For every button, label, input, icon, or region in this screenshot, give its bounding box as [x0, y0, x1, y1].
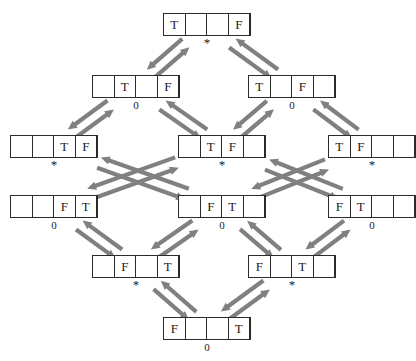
diagram-canvas: TF*TF0TF0TF*TF*TF*FT0FT0FT0FT*FT*FT0 — [0, 0, 416, 361]
tape-node: FT0 — [178, 195, 266, 218]
tape-cell — [186, 14, 208, 35]
tape-cell — [186, 318, 208, 339]
transition-arrow — [75, 228, 116, 259]
tape-cell: F — [158, 76, 180, 97]
tape-cell — [179, 196, 201, 217]
transition-arrow — [312, 108, 352, 139]
tape-node: TF* — [10, 135, 98, 158]
transition-arrow — [166, 100, 209, 131]
tape-cell — [33, 136, 55, 157]
node-label: * — [179, 159, 265, 170]
tape-cell — [394, 136, 416, 157]
tape-cell — [207, 318, 229, 339]
tape-cell — [179, 136, 201, 157]
tape-cell: F — [222, 136, 244, 157]
tape-cell — [372, 136, 394, 157]
tape-cell: F — [54, 196, 76, 217]
tape-cell — [207, 14, 229, 35]
tape-node: FT0 — [328, 195, 416, 218]
transition-arrow — [233, 99, 268, 130]
transition-arrow — [101, 156, 190, 190]
node-label: 0 — [93, 99, 179, 111]
tape-cell — [136, 76, 158, 97]
tape-cell: T — [222, 196, 244, 217]
transition-arrow — [83, 221, 124, 252]
transition-arrow — [158, 108, 201, 139]
tape-cell — [372, 196, 394, 217]
tape-cell: T — [229, 318, 251, 339]
tape-cell — [93, 76, 115, 97]
node-label: * — [93, 279, 179, 290]
tape-cell: F — [76, 136, 98, 157]
tape-node: TF* — [178, 135, 266, 158]
node-label: * — [164, 37, 250, 48]
transition-arrow — [247, 221, 282, 252]
tape-node: FT0 — [163, 317, 251, 340]
tape-cell — [93, 256, 115, 277]
tape-cell: F — [229, 14, 251, 35]
tape-cell: F — [351, 136, 373, 157]
tape-node: TF* — [163, 13, 251, 36]
transition-arrow — [68, 99, 109, 130]
transition-arrow — [90, 167, 179, 201]
tape-cell: F — [329, 196, 351, 217]
node-label: 0 — [164, 341, 250, 353]
node-label: * — [249, 279, 335, 290]
node-label: 0 — [249, 99, 335, 111]
tape-cell: T — [158, 256, 180, 277]
transition-arrow — [152, 288, 189, 321]
transition-arrow — [87, 155, 176, 189]
tape-cell: T — [201, 136, 223, 157]
transition-arrow — [305, 219, 345, 250]
node-label: * — [11, 159, 97, 170]
tape-cell: T — [54, 136, 76, 157]
arrow-layer — [0, 0, 416, 361]
tape-cell — [33, 196, 55, 217]
tape-cell — [314, 76, 336, 97]
tape-cell — [11, 196, 33, 217]
transition-arrow — [228, 46, 272, 79]
transition-arrow — [96, 166, 185, 200]
transition-arrow — [269, 159, 344, 191]
tape-cell: T — [76, 196, 98, 217]
tape-cell — [314, 256, 336, 277]
tape-node: TF* — [328, 135, 416, 158]
tape-cell: F — [115, 256, 137, 277]
transition-arrow — [151, 219, 194, 250]
tape-node: FT* — [92, 255, 180, 278]
transition-arrow — [147, 37, 184, 70]
transition-arrow — [239, 228, 274, 259]
tape-node: TF0 — [92, 75, 180, 98]
node-label: 0 — [11, 219, 97, 231]
tape-cell: F — [292, 76, 314, 97]
transition-arrow — [320, 101, 360, 132]
tape-cell: F — [249, 256, 271, 277]
transition-arrow — [251, 157, 326, 189]
tape-cell: F — [201, 196, 223, 217]
tape-cell: T — [351, 196, 373, 217]
tape-cell: T — [164, 14, 186, 35]
tape-cell — [244, 136, 266, 157]
tape-cell — [136, 256, 158, 277]
transition-arrow — [161, 281, 198, 314]
tape-cell — [244, 196, 266, 217]
tape-cell — [394, 196, 416, 217]
tape-cell: T — [249, 76, 271, 97]
tape-node: FT* — [248, 255, 336, 278]
tape-cell — [271, 76, 293, 97]
node-label: 0 — [329, 219, 415, 231]
tape-cell: T — [329, 136, 351, 157]
tape-cell: T — [115, 76, 137, 97]
node-label: * — [329, 159, 415, 170]
tape-node: TF0 — [248, 75, 336, 98]
transition-arrow — [221, 279, 265, 312]
tape-cell — [11, 136, 33, 157]
tape-node: FT0 — [10, 195, 98, 218]
transition-arrow — [236, 39, 280, 72]
node-label: 0 — [179, 219, 265, 231]
tape-cell: F — [164, 318, 186, 339]
tape-cell — [271, 256, 293, 277]
tape-cell: T — [292, 256, 314, 277]
